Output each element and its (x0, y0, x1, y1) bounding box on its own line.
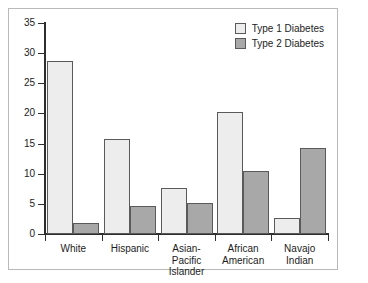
y-axis-tick-label: 10 (9, 169, 35, 179)
legend-label: Type 2 Diabetes (252, 38, 324, 49)
x-axis-tick (45, 235, 46, 241)
legend-swatch-icon (235, 23, 246, 34)
x-axis-category-label: AfricanAmerican (215, 243, 272, 266)
x-axis-tick (102, 235, 103, 241)
x-axis-tick (158, 235, 159, 241)
bar (130, 206, 156, 234)
y-axis-tick-label: 20 (9, 108, 35, 118)
x-axis-category-label-line: Indian (271, 255, 328, 267)
bar (274, 218, 300, 234)
y-axis-tick (38, 53, 44, 54)
y-axis-tick-label: 5 (9, 199, 35, 209)
x-axis-tick (328, 235, 329, 241)
bar (73, 223, 99, 234)
x-axis-category-label-line: African (215, 243, 272, 255)
bar (300, 148, 326, 234)
x-axis-category-label-line: Islander (158, 266, 215, 278)
x-axis-category-label: White (45, 243, 102, 255)
y-axis-tick-label: 30 (9, 48, 35, 58)
x-axis-category-label: NavajoIndian (271, 243, 328, 266)
x-axis-category-label-line: American (215, 255, 272, 267)
y-axis-tick (38, 174, 44, 175)
x-axis-category-label-line: Asian-Pacific (158, 243, 215, 266)
x-axis-category-label-line: Hispanic (102, 243, 159, 255)
x-axis-category-label-line: Navajo (271, 243, 328, 255)
chart-figure: 05101520253035 WhiteHispanicAsian-Pacifi… (8, 8, 338, 270)
y-axis-tick-label: 35 (9, 18, 35, 28)
legend-label: Type 1 Diabetes (252, 23, 324, 34)
x-axis-tick (215, 235, 216, 241)
legend-item: Type 2 Diabetes (235, 36, 324, 51)
bar (104, 139, 130, 234)
y-axis-tick (38, 144, 44, 145)
legend-swatch-icon (235, 38, 246, 49)
chart-legend: Type 1 DiabetesType 2 Diabetes (231, 18, 329, 54)
y-axis-tick-label: 15 (9, 139, 35, 149)
bar (217, 112, 243, 234)
plot-area (45, 23, 328, 234)
x-axis-tick (271, 235, 272, 241)
bar (47, 61, 73, 234)
y-axis-tick (38, 234, 44, 235)
x-axis-category-label: Hispanic (102, 243, 159, 255)
bar (187, 203, 213, 234)
bar (243, 171, 269, 234)
y-axis-tick-label: 0 (9, 229, 35, 239)
y-axis-tick (38, 23, 44, 24)
y-axis-tick (38, 83, 44, 84)
legend-item: Type 1 Diabetes (235, 21, 324, 36)
bar (161, 188, 187, 234)
y-axis-tick-label: 25 (9, 78, 35, 88)
x-axis-category-label: Asian-PacificIslander (158, 243, 215, 278)
y-axis-tick (38, 113, 44, 114)
x-axis-category-label-line: White (45, 243, 102, 255)
y-axis-tick (38, 204, 44, 205)
